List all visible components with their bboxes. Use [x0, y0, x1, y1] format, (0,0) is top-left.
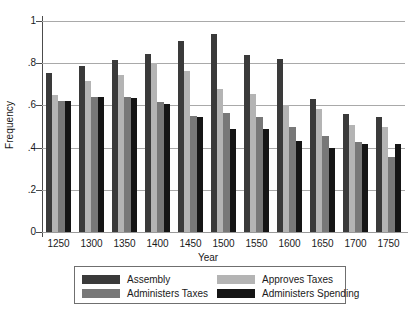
bar [263, 129, 269, 232]
legend-entry: Assembly [82, 273, 170, 286]
x-axis-title: Year [0, 252, 416, 263]
bar-group [112, 21, 137, 232]
bar-group [79, 21, 104, 232]
y-axis-tick-mark [36, 105, 42, 106]
bar [395, 144, 401, 232]
bar [362, 144, 368, 232]
y-axis-tick-mark [36, 21, 42, 22]
legend-label: Administers Spending [262, 288, 359, 299]
y-axis-tick-mark [36, 232, 42, 233]
plot-area [42, 21, 405, 232]
legend-swatch [217, 289, 255, 298]
bar-group [46, 21, 71, 232]
legend-label: Administers Taxes [127, 288, 208, 299]
y-axis-tick-label: .6 [10, 100, 36, 110]
bar [131, 98, 137, 232]
bar-group [310, 21, 335, 232]
legend-entry: Approves Taxes [217, 273, 333, 286]
bar [296, 141, 302, 232]
bar-group [244, 21, 269, 232]
y-axis-tick-label: 1 [10, 16, 36, 26]
legend-swatch [217, 275, 255, 284]
y-axis-tick-label: .4 [10, 143, 36, 153]
bar-group [211, 21, 236, 232]
bar [329, 148, 335, 232]
legend-label: Assembly [127, 274, 170, 285]
bar-group [277, 21, 302, 232]
y-axis-tick-mark [36, 148, 42, 149]
bar [197, 117, 203, 232]
bar [230, 129, 236, 232]
legend-label: Approves Taxes [262, 274, 333, 285]
x-axis-line [42, 232, 408, 233]
bar-group [343, 21, 368, 232]
legend-swatch [82, 275, 120, 284]
y-axis-tick-mark [36, 63, 42, 64]
y-axis-tick-labels: 0.2.4.6.81 [2, 0, 36, 312]
x-axis-tick-label: 1750 [369, 238, 409, 249]
y-axis-tick-mark [36, 190, 42, 191]
legend-swatch [82, 289, 120, 298]
bar [98, 97, 104, 232]
y-axis-tick-label: 0 [10, 227, 36, 237]
bar [65, 101, 71, 232]
bar-group [178, 21, 203, 232]
chart-figure: Frequency 0.2.4.6.81 1250130013501400145… [0, 0, 416, 312]
legend-entry: Administers Spending [217, 287, 359, 300]
y-axis-tick-label: .2 [10, 185, 36, 195]
bar-group [376, 21, 401, 232]
legend-entry: Administers Taxes [82, 287, 208, 300]
chart-legend: AssemblyAdministers TaxesApproves TaxesA… [74, 266, 346, 304]
bar [164, 104, 170, 232]
bar-group [145, 21, 170, 232]
y-axis-tick-label: .8 [10, 58, 36, 68]
